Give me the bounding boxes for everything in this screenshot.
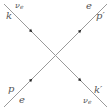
label-bottom-left-momentum: p	[8, 84, 14, 94]
label-nu-subscript: e	[88, 98, 92, 105]
label-nu-subscript: e	[20, 3, 24, 10]
label-bottom-right-particle: νe	[83, 97, 91, 105]
label-top-right-particle: e	[86, 1, 92, 11]
label-top-left-particle: νe	[15, 2, 23, 10]
label-bottom-left-particle: e	[19, 95, 25, 105]
label-top-right-momentum: p′	[96, 11, 105, 21]
label-top-left-momentum: k	[6, 11, 12, 21]
label-bottom-right-momentum: k′	[94, 85, 102, 95]
